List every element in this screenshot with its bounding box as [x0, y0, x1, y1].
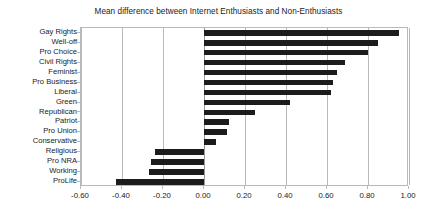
- bar: [204, 90, 331, 96]
- y-axis-tick: [77, 171, 80, 172]
- bar: [204, 60, 345, 66]
- bar: [204, 40, 378, 46]
- y-axis-tick: [77, 141, 80, 142]
- x-axis-label: 0.80: [344, 191, 390, 200]
- chart-title: Mean difference between Internet Enthusi…: [0, 7, 437, 16]
- bar-row: [81, 137, 407, 147]
- bar: [155, 149, 204, 155]
- y-axis-tick: [77, 52, 80, 53]
- y-axis-tick: [77, 151, 80, 152]
- x-axis-tick: [285, 186, 286, 189]
- y-axis-label: Pro Choice: [0, 47, 77, 57]
- bar-row: [81, 108, 407, 118]
- y-axis-label: Pro Union: [0, 126, 77, 136]
- bar: [116, 179, 204, 185]
- bar: [204, 100, 290, 106]
- x-axis-tick: [80, 186, 81, 189]
- y-axis-label: Civil Rights: [0, 57, 77, 67]
- y-axis-label: Green: [0, 97, 77, 107]
- bar-row: [81, 68, 407, 78]
- y-axis-label: Feminist: [0, 67, 77, 77]
- bar: [204, 110, 255, 116]
- bar: [204, 129, 227, 135]
- bar-row: [81, 157, 407, 167]
- bar: [204, 80, 333, 86]
- bar-row: [81, 28, 407, 38]
- bar-row: [81, 98, 407, 108]
- x-axis-tick: [203, 186, 204, 189]
- bar: [204, 139, 216, 145]
- bar-row: [81, 48, 407, 58]
- plot-area: [80, 27, 408, 186]
- x-axis-tick: [244, 186, 245, 189]
- bar: [204, 30, 399, 36]
- x-axis-tick: [367, 186, 368, 189]
- y-axis-tick: [77, 181, 80, 182]
- y-axis-tick: [77, 32, 80, 33]
- bar-row: [81, 58, 407, 68]
- bar: [204, 50, 368, 56]
- y-axis-tick: [77, 42, 80, 43]
- y-axis-label: Patriot: [0, 116, 77, 126]
- y-axis-tick: [77, 92, 80, 93]
- y-axis-tick: [77, 111, 80, 112]
- y-axis-label: Gay Rights: [0, 27, 77, 37]
- bar-row: [81, 127, 407, 137]
- bar-row: [81, 147, 407, 157]
- x-axis-tick: [326, 186, 327, 189]
- x-axis-label: -0.40: [98, 191, 144, 200]
- x-axis-label: 0.20: [221, 191, 267, 200]
- x-axis-tick-labels: -0.60-0.40-0.200.000.200.400.600.801.00: [0, 191, 437, 205]
- y-axis-label: ProLife: [0, 176, 77, 186]
- bar: [204, 119, 229, 125]
- y-axis-label: Well-off: [0, 37, 77, 47]
- bar-row: [81, 38, 407, 48]
- y-axis-label: Conservative: [0, 136, 77, 146]
- bar: [151, 159, 204, 165]
- x-axis-label: 0.00: [180, 191, 226, 200]
- y-axis-tick: [77, 82, 80, 83]
- y-axis-tick: [77, 131, 80, 132]
- bar-row: [81, 167, 407, 177]
- bar-series: [81, 28, 407, 185]
- bar-row: [81, 88, 407, 98]
- x-axis-tick: [408, 186, 409, 189]
- x-axis-label: -0.20: [139, 191, 185, 200]
- y-axis-tick: [77, 161, 80, 162]
- x-axis-label: 0.60: [303, 191, 349, 200]
- x-axis-label: 1.00: [385, 191, 431, 200]
- y-axis-label: Liberal: [0, 87, 77, 97]
- gridline-1.00: [409, 28, 410, 185]
- y-axis-label: Religious: [0, 146, 77, 156]
- y-axis-label: Working: [0, 166, 77, 176]
- bar: [149, 169, 204, 175]
- x-axis-tick: [121, 186, 122, 189]
- x-axis-label: -0.60: [57, 191, 103, 200]
- y-axis-label: Pro Business: [0, 77, 77, 87]
- y-axis-label: Pro NRA: [0, 156, 77, 166]
- y-axis-tick: [77, 102, 80, 103]
- y-axis-category-labels: Gay RightsWell-offPro ChoiceCivil Rights…: [0, 27, 77, 186]
- bar-row: [81, 117, 407, 127]
- bar: [204, 70, 337, 76]
- x-axis-label: 0.40: [262, 191, 308, 200]
- bar-chart: Mean difference between Internet Enthusi…: [0, 0, 437, 221]
- bar-row: [81, 78, 407, 88]
- x-axis-tick: [162, 186, 163, 189]
- y-axis-tick: [77, 62, 80, 63]
- y-axis-label: Republican: [0, 107, 77, 117]
- y-axis-tick: [77, 72, 80, 73]
- y-axis-tick: [77, 121, 80, 122]
